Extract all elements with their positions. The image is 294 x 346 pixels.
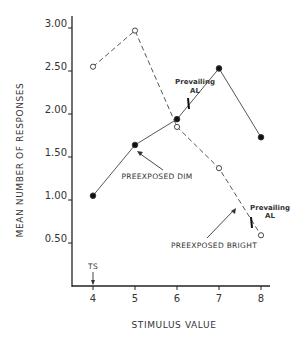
prevailing-al-bright-label-2: AL [265, 212, 275, 220]
bright-data-point [90, 64, 95, 69]
prevailing-al-dim-label-1: Prevailing [175, 78, 215, 86]
prevailing-al-bright-marker [251, 217, 252, 228]
y-tick-label: 2.50 [45, 61, 67, 72]
preexposed-bright-label: PREEXPOSED BRIGHT [171, 241, 257, 250]
dim-data-point [216, 66, 222, 72]
ts-label: TS [87, 262, 98, 271]
prevailing-al-dim-marker [188, 98, 189, 109]
bright-arrow-icon [207, 208, 236, 238]
prevailing-al-bright-label-1: Prevailing [250, 204, 290, 212]
bright-data-point [216, 166, 221, 171]
y-tick-label: 2.00 [45, 104, 67, 115]
axes: 0.501.001.502.002.503.0045678 [45, 16, 270, 304]
y-axis-title: MEAN NUMBER OF RESPONSES [15, 83, 25, 238]
y-tick-label: 0.50 [45, 233, 67, 244]
dim-data-point [258, 134, 264, 140]
ts-arrow-icon [91, 272, 95, 285]
bright-data-point [258, 233, 263, 238]
preexposed-dim-label: PREEXPOSED DIM [121, 172, 192, 181]
bright-data-point [132, 28, 137, 33]
dim-data-point [132, 142, 138, 148]
y-tick-label: 1.50 [45, 147, 67, 158]
prevailing-al-dim-label-2: AL [190, 87, 200, 95]
x-tick-label: 7 [216, 293, 222, 304]
y-tick-label: 1.00 [45, 190, 67, 201]
line-chart: 0.501.001.502.002.503.0045678 MEAN NUMBE… [0, 0, 294, 346]
x-tick-label: 6 [174, 293, 180, 304]
bright-data-point [174, 124, 179, 129]
annotations: MEAN NUMBER OF RESPONSES STIMULUS VALUE … [15, 78, 290, 330]
dim-data-point [174, 116, 180, 122]
x-tick-label: 5 [132, 293, 138, 304]
x-axis-title: STIMULUS VALUE [132, 320, 217, 330]
x-tick-label: 4 [90, 293, 96, 304]
y-tick-label: 3.00 [45, 18, 67, 29]
dim-arrow-icon [137, 151, 163, 170]
dim-data-point [90, 193, 96, 199]
series-layer [90, 28, 264, 238]
bright-series-line [93, 31, 261, 236]
x-tick-label: 8 [258, 293, 264, 304]
